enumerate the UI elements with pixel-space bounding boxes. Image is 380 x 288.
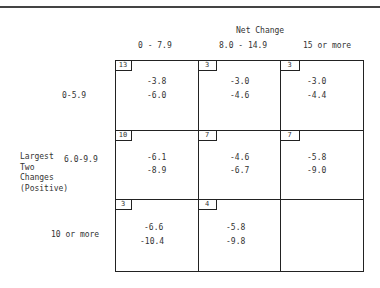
row-group-label-line: Two bbox=[20, 163, 68, 174]
column-group-title: Net Change bbox=[236, 26, 284, 35]
cell-value-1: -5.8 bbox=[226, 223, 286, 232]
cell-value-1: -3.0 bbox=[230, 77, 290, 86]
row-label-0: 0-5.9 bbox=[62, 91, 86, 100]
cell-value-2: -9.8 bbox=[226, 237, 286, 246]
count-box: 4 bbox=[198, 199, 217, 210]
count-box: 7 bbox=[198, 130, 217, 141]
cell-value-1: -6.1 bbox=[147, 153, 207, 162]
row-label-2: 10 or more bbox=[51, 230, 99, 239]
cell-value-1: -4.6 bbox=[230, 153, 290, 162]
cell-value-1: -3.8 bbox=[147, 77, 207, 86]
count-box: 10 bbox=[115, 130, 132, 141]
column-header-0: 0 - 7.9 bbox=[138, 41, 172, 50]
row-divider bbox=[115, 130, 364, 131]
cell-value-2: -10.4 bbox=[140, 237, 200, 246]
cell-value-1: -5.8 bbox=[307, 153, 367, 162]
column-header-2: 15 or more bbox=[303, 41, 351, 50]
row-group-label-line: Largest bbox=[20, 152, 68, 163]
count-box: 7 bbox=[280, 130, 300, 141]
row-label-1: 6.0-9.9 bbox=[64, 155, 98, 164]
cell-value-1: -6.6 bbox=[144, 223, 204, 232]
top-rule bbox=[0, 6, 380, 8]
cell-value-2: -6.7 bbox=[230, 166, 290, 175]
column-header-1: 8.0 - 14.9 bbox=[219, 41, 267, 50]
row-divider bbox=[115, 199, 364, 200]
cell-value-2: -4.4 bbox=[307, 91, 367, 100]
cell-value-2: -6.0 bbox=[147, 91, 207, 100]
row-group-label: Largest Two Changes (Positive) bbox=[20, 152, 68, 194]
row-group-label-line: (Positive) bbox=[20, 184, 68, 195]
cell-value-1: -3.0 bbox=[307, 77, 367, 86]
cell-value-2: -9.0 bbox=[307, 166, 367, 175]
count-box: 3 bbox=[198, 60, 217, 71]
cell-value-2: -8.9 bbox=[147, 166, 207, 175]
cell-value-2: -4.6 bbox=[230, 91, 290, 100]
row-group-label-line: Changes bbox=[20, 173, 68, 184]
count-box: 3 bbox=[115, 199, 132, 210]
count-box: 3 bbox=[280, 60, 300, 71]
count-box: 13 bbox=[115, 60, 132, 71]
